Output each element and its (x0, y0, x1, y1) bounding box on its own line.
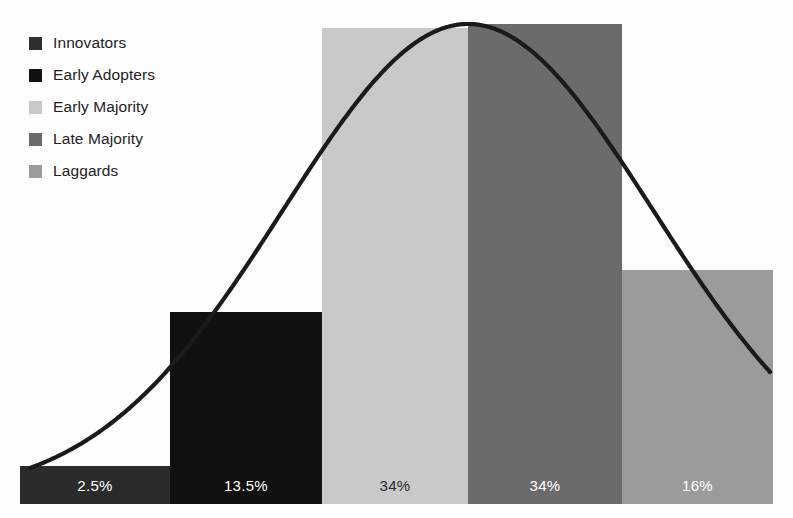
legend-item-early-majority[interactable]: Early Majority (29, 91, 155, 123)
legend-item-label: Early Majority (53, 99, 148, 115)
bar-value-label: 2.5% (77, 478, 112, 493)
legend-item-label: Early Adopters (53, 67, 155, 83)
bar-value-label: 13.5% (224, 478, 268, 493)
legend-item-laggards[interactable]: Laggards (29, 155, 155, 187)
bar-4 (622, 270, 773, 504)
legend-swatch-icon (29, 37, 42, 50)
legend-item-late-majority[interactable]: Late Majority (29, 123, 155, 155)
legend-item-label: Innovators (53, 35, 126, 51)
legend-swatch-icon (29, 133, 42, 146)
bar-value-label: 16% (682, 478, 713, 493)
legend-item-label: Late Majority (53, 131, 143, 147)
legend-item-label: Laggards (53, 163, 118, 179)
bar-3 (468, 24, 622, 504)
bar-value-label: 34% (380, 478, 411, 493)
legend-swatch-icon (29, 165, 42, 178)
legend-swatch-icon (29, 101, 42, 114)
legend-item-early-adopters[interactable]: Early Adopters (29, 59, 155, 91)
bar-2 (322, 28, 468, 504)
bar-value-label: 34% (530, 478, 561, 493)
chart-legend: Innovators Early Adopters Early Majority… (29, 27, 155, 187)
chart-canvas: Innovators Early Adopters Early Majority… (0, 0, 793, 518)
legend-swatch-icon (29, 69, 42, 82)
legend-item-innovators[interactable]: Innovators (29, 27, 155, 59)
